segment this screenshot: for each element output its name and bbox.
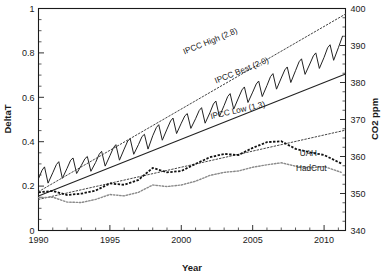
- y-axis-left-tick-label: 0.8: [22, 48, 35, 58]
- hadcrut-label: HadCrut: [296, 164, 327, 173]
- plot-frame: [39, 9, 346, 231]
- y-axis-left-tick-label: 0.4: [22, 137, 35, 147]
- y-axis-right-title: CO2 ppm: [369, 98, 380, 140]
- y-axis-right-tick-labels: 340350360370380390400: [351, 4, 366, 236]
- y-axis-right-tick-label: 400: [351, 4, 366, 14]
- y-axis-left-tick-label: 0.6: [22, 93, 35, 103]
- x-axis-tick-label: 2010: [314, 235, 334, 245]
- y-axis-left-tick-label: 0.2: [22, 181, 35, 191]
- series-line-ipcc-best-2-0: [39, 74, 346, 196]
- x-axis-tick-label: 1995: [100, 235, 120, 245]
- data-series-group: [39, 14, 346, 202]
- y-axis-right-tick-label: 340: [351, 226, 366, 236]
- y-axis-right-tick-label: 360: [351, 152, 366, 162]
- chart-canvas: 00.20.40.60.81 340350360370380390400 199…: [0, 0, 387, 279]
- y-axis-right-tick-label: 380: [351, 78, 366, 88]
- y-axis-right-tick-label: 370: [351, 115, 366, 125]
- x-axis-tick-label: 2000: [171, 235, 191, 245]
- x-axis-tick-label: 2005: [243, 235, 263, 245]
- y-axis-right-tick-label: 390: [351, 41, 366, 51]
- x-axis-title: Year: [182, 262, 202, 273]
- climate-chart-figure: 00.20.40.60.81 340350360370380390400 199…: [0, 0, 387, 279]
- series-line-co2-mauna-loa-monthly-sawtooth: [39, 36, 343, 183]
- y-axis-left-tick-label: 1: [29, 4, 34, 14]
- uah-label: UAH: [300, 149, 317, 158]
- x-axis-ticks: [39, 225, 339, 231]
- y-axis-left-tick-labels: 00.20.40.60.81: [22, 4, 35, 236]
- ipcc-best-label: IPCC Best (2.0): [213, 56, 270, 86]
- ipcc-low-label: IPCC Low (1.3): [210, 100, 267, 121]
- y-axis-left-title: DeltaT: [2, 104, 13, 133]
- x-axis-tick-label: 1990: [28, 235, 48, 245]
- y-axis-right-tick-label: 350: [351, 189, 366, 199]
- ipcc-high-label: IPCC High (2.8): [182, 26, 239, 56]
- x-axis-tick-labels: 19901995200020052010: [28, 235, 334, 245]
